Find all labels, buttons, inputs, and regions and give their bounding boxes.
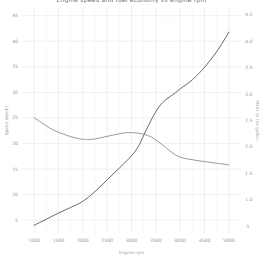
y-tick-label-left: 40 (2, 39, 18, 44)
y-axis-left-title: Speed (km/h) (4, 97, 9, 145)
y-tick-label-left: 30 (2, 90, 18, 95)
chart-title: Engine speed and fuel economy vs engine … (0, 0, 263, 3)
y-tick-label-right: 4.5 (245, 12, 261, 17)
y-tick-label-left: 10 (2, 192, 18, 197)
x-tick-label: 1500 (46, 238, 72, 243)
y-tick-label-right: 1.5 (245, 171, 261, 176)
y-tick-label-left: 5 (2, 218, 18, 223)
x-tick-label: 3000 (119, 238, 145, 243)
y-tick-label-right: 4.0 (245, 39, 261, 44)
chart-figure: Engine speed and fuel economy vs engine … (0, 0, 263, 262)
x-tick-label: 2000 (70, 238, 96, 243)
x-tick-label: 3500 (143, 238, 169, 243)
y-tick-label-right: 2.5 (245, 118, 261, 123)
y-tick-label-right: 3.0 (245, 92, 261, 97)
x-tick-label: 4500 (192, 238, 218, 243)
x-tick-label: 1000 (21, 238, 47, 243)
y-tick-label-left: 20 (2, 141, 18, 146)
y-tick-label-left: 45 (2, 13, 18, 18)
y-tick-label-right: 1.0 (245, 197, 261, 202)
y-tick-label-right: 2.0 (245, 144, 261, 149)
x-tick-label: 5000 (216, 238, 242, 243)
y-tick-label-right: 3.5 (245, 65, 261, 70)
x-tick-label: 4000 (167, 238, 193, 243)
y-tick-label-right: .5 (245, 224, 261, 229)
plot-canvas (0, 0, 263, 262)
x-axis-title: Engine rpm (0, 250, 263, 255)
y-tick-label-left: 15 (2, 167, 18, 172)
x-tick-label: 2500 (94, 238, 120, 243)
y-tick-label-left: 35 (2, 64, 18, 69)
y-tick-label-left: 25 (2, 115, 18, 120)
